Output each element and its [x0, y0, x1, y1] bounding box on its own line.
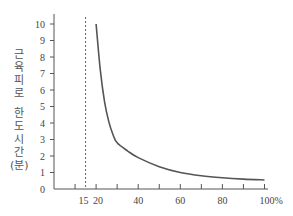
- y-tick-label: 1: [40, 167, 45, 178]
- y-label-char: 시: [10, 133, 28, 146]
- y-tick-label: 10: [35, 19, 45, 30]
- y-label-char: 근: [10, 48, 28, 61]
- axes: [54, 14, 268, 189]
- x-tick-label: 60: [175, 195, 185, 206]
- y-label-char: 육: [10, 61, 28, 74]
- y-tick-label: 0: [40, 184, 45, 195]
- y-tick-label: 4: [40, 118, 45, 129]
- y-label-char: 로: [10, 87, 28, 100]
- y-label-char: 도: [10, 120, 28, 133]
- y-label-char: (분): [10, 159, 28, 172]
- y-tick-label: 6: [40, 85, 45, 96]
- x-tick-label: 40: [133, 195, 143, 206]
- y-axis-label: 근육피로한도시간(분): [10, 48, 28, 172]
- x-tick-label: 15: [79, 195, 89, 206]
- x-tick-label: 20: [93, 195, 103, 206]
- x-tick-label: 80: [217, 195, 227, 206]
- y-label-gap: [10, 100, 28, 107]
- y-tick-label: 7: [40, 68, 45, 79]
- y-tick-label: 3: [40, 134, 45, 145]
- y-axis-ticks: 012345678910: [35, 19, 54, 195]
- y-tick-label: 9: [40, 35, 45, 46]
- y-label-char: 간: [10, 146, 28, 159]
- chart-canvas: 012345678910 1520406080100%: [0, 0, 293, 216]
- y-tick-label: 5: [40, 101, 45, 112]
- x-tick-label: 100%: [260, 195, 283, 206]
- y-tick-label: 8: [40, 52, 45, 63]
- y-label-char: 피: [10, 74, 28, 87]
- data-curve: [96, 24, 264, 180]
- y-label-char: 한: [10, 107, 28, 120]
- x-axis-ticks: 1520406080100%: [75, 184, 283, 206]
- y-tick-label: 2: [40, 151, 45, 162]
